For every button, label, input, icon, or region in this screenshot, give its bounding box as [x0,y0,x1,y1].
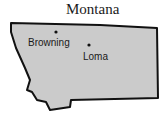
browning-dot [54,30,57,33]
montana-map: Browning Loma [0,0,165,115]
loma-dot [87,43,90,46]
loma-label: Loma [83,51,108,62]
browning-label: Browning [28,37,70,48]
